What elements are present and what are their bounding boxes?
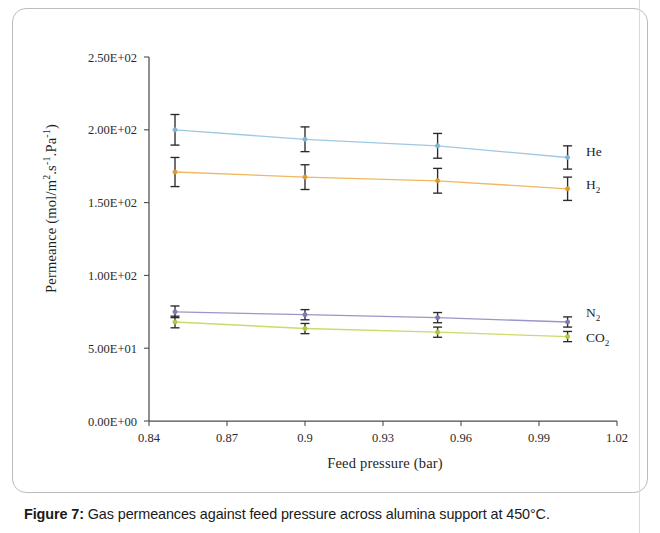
x-tick-label: 0.87 [216,431,238,445]
series-line [175,322,568,337]
figure-container: 0.00E+005.00E+011.00E+021.50E+022.00E+02… [0,0,660,533]
series-N2 [171,306,573,327]
figure-caption: Figure 7: Gas permeances against feed pr… [24,505,654,523]
chart-plot-area: 0.00E+005.00E+011.00E+021.50E+022.00E+02… [0,0,660,497]
y-tick-label: 2.50E+02 [88,51,137,65]
y-tick-label: 1.50E+02 [88,196,137,210]
series-label-N2: N2 [586,305,600,321]
data-point-marker [436,330,440,334]
data-point-marker [436,316,440,320]
data-point-marker [566,320,570,324]
y-axis-ticks [144,57,149,421]
series-H2 [171,157,573,200]
series-label-H2: H2 [586,177,600,193]
permeance-line-chart: 0.00E+005.00E+011.00E+021.50E+022.00E+02… [0,0,660,497]
data-point-marker [436,144,440,148]
data-point-marker [303,313,307,317]
data-point-marker [566,187,570,191]
y-tick-label: 0.00E+00 [88,415,137,429]
data-point-marker [303,326,307,330]
y-tick-label: 5.00E+01 [88,342,137,356]
y-axis-title: Permeance (mol/m2.s-1.Pa-1) [43,79,60,339]
series-He [171,115,573,170]
x-tick-label: 0.93 [372,431,394,445]
x-tick-label: 0.84 [138,431,161,445]
data-point-marker [303,137,307,141]
x-tick-label: 0.99 [528,431,550,445]
y-tick-label: 2.00E+02 [88,123,137,137]
scan-edge-artifact [639,0,640,533]
x-tick-label: 1.02 [606,431,628,445]
data-series-group [171,115,573,342]
series-line [175,130,568,158]
x-axis-ticks [149,421,617,426]
data-point-marker [173,310,177,314]
x-tick-label: 0.96 [450,431,472,445]
x-axis-tick-labels: 0.840.870.90.930.960.991.02 [138,431,628,445]
series-line [175,312,568,322]
data-point-marker [566,155,570,159]
series-line [175,172,568,189]
y-axis-tick-labels: 0.00E+005.00E+011.00E+021.50E+022.00E+02… [88,51,137,429]
data-point-marker [303,175,307,179]
y-tick-label: 1.00E+02 [88,269,137,283]
data-point-marker [173,170,177,174]
series-label-CO2: CO2 [586,330,609,346]
data-point-marker [173,320,177,324]
data-point-marker [566,334,570,338]
series-label-He: He [586,144,602,160]
data-point-marker [173,128,177,132]
data-point-marker [436,179,440,183]
x-tick-label: 0.9 [297,431,313,445]
figure-caption-text: Gas permeances against feed pressure acr… [84,506,550,522]
figure-caption-label: Figure 7: [24,506,84,522]
x-axis-title: Feed pressure (bar) [150,455,620,472]
